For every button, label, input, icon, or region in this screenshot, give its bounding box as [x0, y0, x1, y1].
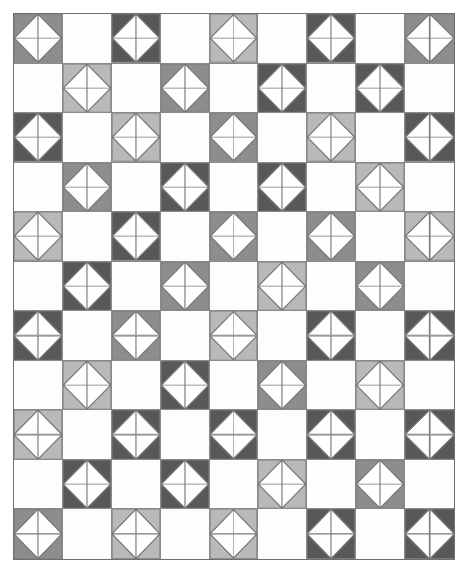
block-quadrant-top-right: [331, 14, 355, 38]
block-quadrant-bottom-left: [258, 286, 282, 310]
block-quadrant-bottom-left: [356, 286, 380, 310]
quilt-empty-cell: [307, 64, 356, 114]
block-quadrant-bottom-right: [38, 336, 62, 360]
half-square-triangle-block: [307, 14, 355, 63]
block-quadrant-top-right: [136, 410, 160, 434]
quilt-block: [307, 14, 356, 64]
block-quadrant-top-right: [282, 361, 306, 385]
block-quadrant-bottom-right: [38, 236, 62, 260]
block-quadrant-top-right: [233, 509, 257, 534]
block-quadrant-top-left: [112, 212, 136, 236]
block-quadrant-bottom-right: [185, 88, 209, 112]
block-quadrant-top-right: [136, 311, 160, 335]
quilt-block: [14, 113, 63, 163]
half-square-triangle-block: [112, 113, 160, 162]
block-quadrant-top-left: [14, 509, 38, 534]
quilt-block: [161, 460, 210, 510]
block-quadrant-bottom-right: [185, 187, 209, 211]
block-quadrant-top-left: [210, 14, 234, 38]
block-quadrant-bottom-left: [307, 336, 331, 360]
quilt-block: [112, 212, 161, 262]
half-square-triangle-block: [112, 410, 160, 459]
block-quadrant-bottom-left: [405, 236, 429, 260]
block-quadrant-bottom-left: [112, 336, 136, 360]
block-quadrant-top-right: [38, 113, 62, 137]
quilt-grid: [14, 14, 454, 559]
block-quadrant-bottom-left: [161, 88, 185, 112]
block-quadrant-bottom-right: [136, 435, 160, 459]
half-square-triangle-block: [14, 212, 62, 261]
half-square-triangle-block: [112, 14, 160, 63]
block-quadrant-bottom-right: [38, 534, 62, 559]
block-quadrant-top-right: [136, 212, 160, 236]
half-square-triangle-block: [14, 509, 62, 559]
block-quadrant-bottom-left: [112, 435, 136, 459]
block-quadrant-bottom-left: [63, 88, 87, 112]
quilt-block: [405, 14, 454, 64]
block-quadrant-top-right: [430, 509, 454, 534]
half-square-triangle-block: [307, 410, 355, 459]
block-quadrant-top-right: [233, 14, 257, 38]
block-quadrant-bottom-left: [307, 534, 331, 559]
quilt-empty-cell: [63, 113, 112, 163]
quilt-empty-cell: [405, 460, 454, 510]
quilt-block: [63, 460, 112, 510]
quilt-block: [307, 410, 356, 460]
block-quadrant-top-right: [185, 163, 209, 187]
block-quadrant-bottom-right: [136, 534, 160, 559]
block-quadrant-bottom-right: [87, 88, 111, 112]
half-square-triangle-block: [161, 361, 209, 410]
block-quadrant-top-left: [112, 113, 136, 137]
block-quadrant-top-left: [356, 460, 380, 484]
quilt-block: [258, 460, 307, 510]
quilt-empty-cell: [63, 311, 112, 361]
half-square-triangle-block: [307, 212, 355, 261]
half-square-triangle-block: [161, 262, 209, 311]
block-quadrant-top-left: [63, 262, 87, 286]
half-square-triangle-block: [210, 410, 258, 459]
quilt-block: [210, 509, 259, 559]
block-quadrant-top-right: [233, 212, 257, 236]
half-square-triangle-block: [112, 212, 160, 261]
quilt-empty-cell: [258, 410, 307, 460]
block-quadrant-top-left: [258, 262, 282, 286]
block-quadrant-bottom-right: [331, 236, 355, 260]
block-quadrant-top-left: [307, 113, 331, 137]
half-square-triangle-block: [405, 509, 454, 559]
block-quadrant-top-right: [430, 14, 454, 38]
block-quadrant-bottom-left: [63, 484, 87, 508]
quilt-block: [258, 163, 307, 213]
half-square-triangle-block: [405, 212, 454, 261]
half-square-triangle-block: [63, 262, 111, 311]
block-quadrant-bottom-right: [185, 286, 209, 310]
block-quadrant-bottom-right: [331, 336, 355, 360]
block-quadrant-bottom-left: [14, 38, 38, 62]
quilt-empty-cell: [63, 410, 112, 460]
half-square-triangle-block: [14, 14, 62, 63]
half-square-triangle-block: [210, 311, 258, 360]
quilt-empty-cell: [210, 361, 259, 411]
quilt-empty-cell: [405, 361, 454, 411]
block-quadrant-top-right: [185, 361, 209, 385]
block-quadrant-top-left: [356, 361, 380, 385]
block-quadrant-bottom-left: [63, 385, 87, 409]
half-square-triangle-block: [307, 113, 355, 162]
block-quadrant-bottom-left: [210, 236, 234, 260]
block-quadrant-bottom-left: [405, 336, 429, 360]
block-quadrant-top-right: [430, 311, 454, 335]
block-quadrant-top-right: [282, 460, 306, 484]
quilt-empty-cell: [356, 311, 405, 361]
quilt-block: [210, 212, 259, 262]
quilt-empty-cell: [112, 163, 161, 213]
quilt-empty-cell: [63, 212, 112, 262]
block-quadrant-bottom-left: [356, 484, 380, 508]
block-quadrant-top-left: [161, 262, 185, 286]
block-quadrant-bottom-right: [282, 286, 306, 310]
quilt-block: [405, 212, 454, 262]
quilt-block: [405, 410, 454, 460]
block-quadrant-bottom-left: [405, 137, 429, 161]
block-quadrant-top-right: [430, 113, 454, 137]
quilt-empty-cell: [14, 163, 63, 213]
block-quadrant-bottom-left: [63, 286, 87, 310]
quilt-empty-cell: [112, 361, 161, 411]
